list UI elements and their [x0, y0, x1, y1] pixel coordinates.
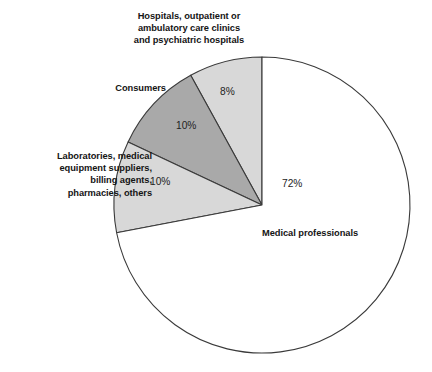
pie-slice-group: [114, 57, 410, 353]
slice-label-medical-professionals: Medical professionals: [262, 227, 412, 239]
slice-label-hospitals: Hospitals, outpatient or ambulatory care…: [96, 10, 282, 47]
slice-value-consumers: 10%: [176, 120, 196, 131]
slice-value-hospitals: 8%: [220, 86, 235, 97]
pie-chart: Hospitals, outpatient or ambulatory care…: [0, 0, 432, 372]
slice-value-laboratories: 10%: [150, 176, 170, 187]
slice-label-laboratories: Laboratories, medical equipment supplier…: [2, 150, 152, 199]
slice-value-medical-professionals: 72%: [282, 178, 302, 189]
slice-label-consumers: Consumers: [62, 82, 166, 94]
